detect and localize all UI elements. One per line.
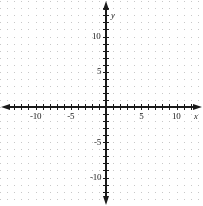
tick-marks-group (15, 9, 192, 193)
y-tick-label: 5 (97, 67, 101, 76)
x-axis-arrow-left (1, 104, 10, 110)
y-tick-label: -5 (94, 138, 101, 147)
x-axis-arrow-right (193, 104, 202, 110)
x-axis-name-label: x (194, 112, 198, 121)
y-axis-arrow-down (103, 196, 109, 205)
y-tick-label: -10 (90, 173, 101, 182)
coordinate-plane-graph: -10-5510 105-5-10 x y (0, 0, 203, 206)
x-tick-label: 5 (139, 112, 143, 121)
axes-layer (0, 0, 203, 206)
x-tick-label: -10 (30, 112, 41, 121)
y-tick-label: 10 (92, 32, 101, 41)
x-tick-label: -5 (67, 112, 74, 121)
x-tick-label: 10 (172, 112, 181, 121)
y-axis-name-label: y (111, 11, 115, 20)
axis-lines-group (1, 1, 202, 205)
y-axis-arrow-up (103, 1, 109, 10)
